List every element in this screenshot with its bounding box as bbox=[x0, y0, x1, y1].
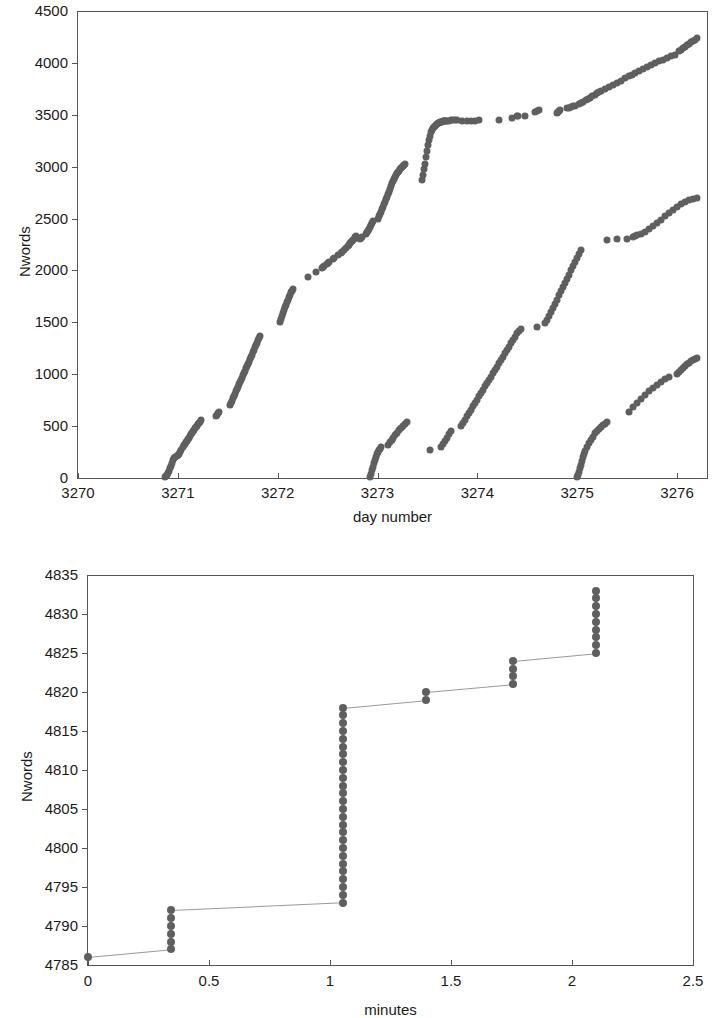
y-tick-label: 4815 bbox=[8, 723, 78, 738]
data-point bbox=[339, 789, 347, 797]
x-tick-label: 3274 bbox=[461, 485, 494, 500]
x-tick-label: 2.5 bbox=[683, 973, 704, 988]
data-point bbox=[604, 418, 611, 425]
data-point bbox=[339, 743, 347, 751]
data-point bbox=[592, 626, 600, 634]
y-tick bbox=[82, 770, 88, 771]
y-tick bbox=[72, 63, 78, 64]
series-connector bbox=[343, 700, 425, 709]
data-point bbox=[666, 374, 673, 381]
data-point bbox=[509, 665, 517, 673]
y-tick-label: 4825 bbox=[8, 645, 78, 660]
x-tick bbox=[209, 960, 210, 966]
y-tick-label: 4785 bbox=[8, 957, 78, 972]
data-point bbox=[509, 657, 517, 665]
x-tick bbox=[693, 960, 694, 966]
data-point bbox=[614, 236, 621, 243]
x-tick-label: 0.5 bbox=[199, 973, 220, 988]
y-tick-label: 1000 bbox=[0, 366, 68, 381]
x-tick-label: 3273 bbox=[361, 485, 394, 500]
y-tick-label: 4000 bbox=[0, 55, 68, 70]
axis-spine-top bbox=[87, 575, 694, 576]
data-point bbox=[424, 148, 431, 155]
data-point bbox=[167, 914, 175, 922]
y-tick-label: 4835 bbox=[8, 567, 78, 582]
data-point bbox=[694, 35, 701, 42]
data-point bbox=[377, 444, 384, 451]
series-connector bbox=[171, 903, 343, 912]
x-tick-label: 3272 bbox=[261, 485, 294, 500]
y-tick bbox=[72, 270, 78, 271]
data-point bbox=[557, 107, 564, 114]
y-tick-label: 2500 bbox=[0, 211, 68, 226]
data-point bbox=[339, 899, 347, 907]
series-connector bbox=[88, 949, 172, 958]
data-point bbox=[197, 417, 204, 424]
y-tick bbox=[72, 426, 78, 427]
data-point bbox=[339, 852, 347, 860]
y-tick-label: 3000 bbox=[0, 159, 68, 174]
bottom-x-axis-title: minutes bbox=[364, 1001, 417, 1018]
y-tick bbox=[82, 692, 88, 693]
data-point bbox=[339, 774, 347, 782]
chart-panel-top: Nwords day number 0500100015002000250030… bbox=[0, 0, 715, 530]
x-tick bbox=[451, 960, 452, 966]
bottom-plot-area bbox=[88, 575, 693, 965]
x-tick-label: 1 bbox=[326, 973, 334, 988]
data-point bbox=[578, 246, 585, 253]
y-tick bbox=[72, 219, 78, 220]
data-point bbox=[592, 633, 600, 641]
axis-spine-top bbox=[77, 11, 708, 12]
x-tick-label: 3271 bbox=[161, 485, 194, 500]
top-plot-area bbox=[78, 11, 707, 478]
y-tick bbox=[82, 887, 88, 888]
y-tick-label: 3500 bbox=[0, 107, 68, 122]
data-point bbox=[496, 116, 503, 123]
data-point bbox=[339, 797, 347, 805]
y-tick bbox=[72, 167, 78, 168]
y-tick bbox=[82, 926, 88, 927]
y-tick-label: 4800 bbox=[8, 840, 78, 855]
y-tick bbox=[72, 322, 78, 323]
x-tick bbox=[378, 473, 379, 479]
data-point bbox=[592, 610, 600, 618]
data-point bbox=[215, 409, 222, 416]
data-point bbox=[694, 194, 701, 201]
data-point bbox=[476, 117, 483, 124]
data-point bbox=[592, 618, 600, 626]
data-point bbox=[402, 160, 409, 167]
y-tick-label: 4830 bbox=[8, 606, 78, 621]
axis-spine-right bbox=[693, 575, 694, 966]
data-point bbox=[448, 428, 455, 435]
y-tick-label: 4500 bbox=[0, 3, 68, 18]
x-tick-label: 3270 bbox=[61, 485, 94, 500]
data-point bbox=[339, 711, 347, 719]
x-tick-label: 0 bbox=[84, 973, 92, 988]
data-point bbox=[522, 112, 529, 119]
data-point bbox=[592, 649, 600, 657]
y-tick bbox=[82, 731, 88, 732]
data-point bbox=[422, 688, 430, 696]
y-tick-label: 500 bbox=[0, 418, 68, 433]
y-tick-label: 4795 bbox=[8, 879, 78, 894]
data-point bbox=[404, 419, 411, 426]
data-point bbox=[304, 273, 311, 280]
data-point bbox=[509, 680, 517, 688]
chart-panel-bottom: Nwords minutes 4785479047954800480548104… bbox=[0, 530, 715, 1007]
axis-spine-left bbox=[77, 11, 78, 479]
x-tick-label: 1.5 bbox=[441, 973, 462, 988]
data-point bbox=[339, 727, 347, 735]
data-point bbox=[592, 641, 600, 649]
data-point bbox=[339, 766, 347, 774]
x-tick-label: 2 bbox=[568, 973, 576, 988]
x-tick bbox=[178, 473, 179, 479]
data-point bbox=[592, 594, 600, 602]
y-tick-label: 2000 bbox=[0, 262, 68, 277]
data-point bbox=[592, 602, 600, 610]
data-point bbox=[339, 782, 347, 790]
data-point bbox=[534, 323, 541, 330]
data-point bbox=[339, 860, 347, 868]
data-point bbox=[427, 446, 434, 453]
x-tick bbox=[677, 473, 678, 479]
